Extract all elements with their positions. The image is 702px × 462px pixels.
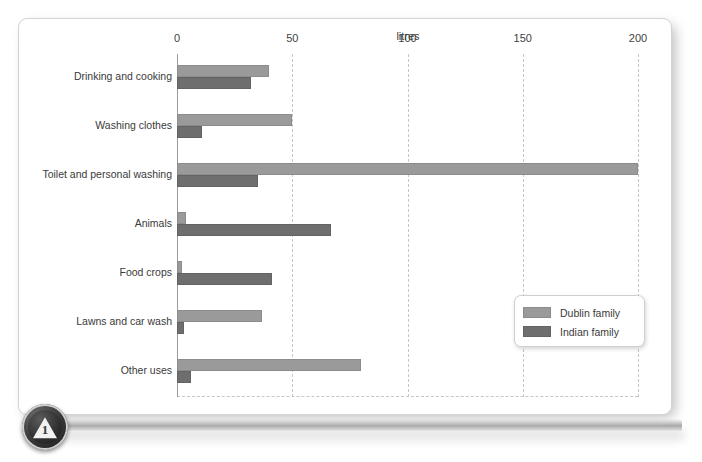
x-tick-label: 0 — [174, 32, 180, 44]
category-label: Other uses — [121, 364, 172, 376]
chart-legend: Dublin family Indian family — [514, 295, 645, 347]
legend-swatch-icon — [523, 326, 551, 337]
legend-label: Dublin family — [560, 307, 620, 319]
badge-number-label: 1 — [42, 422, 49, 438]
gridline — [408, 54, 409, 397]
legend-swatch-icon — [523, 307, 551, 318]
x-tick-label: 100 — [398, 32, 416, 44]
footer-bar — [36, 419, 682, 432]
bar — [177, 310, 262, 322]
category-label: Washing clothes — [95, 119, 172, 131]
page-canvas: litres 050100150200 Drinking and cooking… — [0, 0, 702, 462]
x-tick-label: 200 — [629, 32, 647, 44]
bar — [177, 371, 191, 383]
bar — [177, 224, 331, 236]
x-tick-label: 50 — [286, 32, 298, 44]
legend-item[interactable]: Indian family — [523, 322, 636, 341]
bar — [177, 175, 258, 187]
bar — [177, 77, 251, 89]
bar — [177, 273, 272, 285]
figure-number-badge: 1 — [22, 404, 68, 450]
category-label: Lawns and car wash — [76, 315, 172, 327]
badge-inner: 1 — [28, 410, 62, 444]
bar — [177, 65, 269, 77]
x-tick-label: 150 — [514, 32, 532, 44]
legend-label: Indian family — [560, 326, 619, 338]
bar — [177, 126, 202, 138]
bar — [177, 163, 638, 175]
horizontal-bar-chart: litres 050100150200 Drinking and cooking… — [18, 18, 672, 415]
category-label: Toilet and personal washing — [42, 168, 172, 180]
bar — [177, 261, 182, 273]
category-label: Animals — [135, 217, 172, 229]
category-label: Drinking and cooking — [74, 70, 172, 82]
category-label: Food crops — [119, 266, 172, 278]
bar — [177, 359, 361, 371]
bar — [177, 114, 292, 126]
legend-item[interactable]: Dublin family — [523, 303, 636, 322]
bar — [177, 212, 186, 224]
bar — [177, 322, 184, 334]
